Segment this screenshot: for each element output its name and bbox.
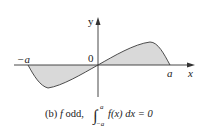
shaded-region-positive: [98, 42, 170, 65]
origin-label: 0: [88, 52, 94, 64]
integral-lower-limit: −a: [96, 120, 105, 128]
x-axis-label: x: [187, 67, 193, 79]
integrand: f(x) dx = 0: [108, 108, 153, 120]
integral-upper-limit: a: [100, 103, 104, 111]
caption: (b) f odd, ∫ a −a f(x) dx = 0: [45, 103, 153, 128]
shaded-region-negative: [28, 65, 98, 88]
neg-a-label: −a: [17, 53, 30, 65]
svg-text:(b) f odd,: (b) f odd,: [45, 108, 84, 120]
y-axis-arrow-icon: [96, 17, 101, 25]
odd-function-diagram: y 0 −a a x (b) f odd, ∫ a −a f(x) dx = 0: [0, 0, 202, 129]
caption-prefix: (b): [45, 108, 60, 120]
caption-odd: odd,: [63, 108, 84, 119]
pos-a-label: a: [167, 67, 173, 79]
y-axis-label: y: [88, 15, 94, 27]
